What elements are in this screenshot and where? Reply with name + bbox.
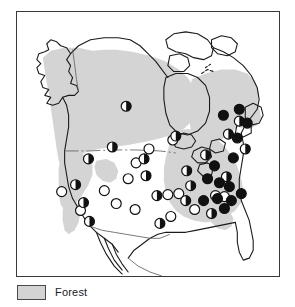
- data-point-half: [121, 101, 131, 111]
- data-point-solid: [210, 161, 220, 171]
- data-point-solid: [213, 194, 223, 204]
- data-point-open: [130, 205, 140, 215]
- data-point-open: [144, 144, 154, 154]
- legend-swatch-forest: [17, 285, 46, 300]
- data-point-half: [83, 154, 93, 164]
- data-point-half: [141, 171, 151, 181]
- map-legend: Forest: [17, 285, 87, 300]
- data-point-open: [111, 199, 121, 209]
- data-point-solid: [203, 174, 213, 184]
- data-point-half: [79, 198, 89, 208]
- data-point-solid: [232, 133, 242, 143]
- data-point-half: [171, 131, 181, 141]
- data-point-solid: [236, 189, 246, 199]
- map-frame: [16, 11, 280, 277]
- data-point-open: [99, 186, 109, 196]
- data-point-half: [207, 209, 217, 219]
- data-point-half: [152, 191, 162, 201]
- data-point-solid: [219, 204, 229, 214]
- data-point-solid: [226, 196, 236, 206]
- distribution-map-figure: Forest: [0, 0, 295, 307]
- data-point-open: [123, 174, 133, 184]
- data-point-half: [71, 180, 81, 190]
- data-point-solid: [234, 104, 244, 114]
- data-point-half: [107, 142, 117, 152]
- data-point-open: [163, 190, 173, 200]
- data-point-half: [155, 218, 165, 228]
- data-point-open: [166, 211, 176, 221]
- data-point-solid: [228, 153, 238, 163]
- legend-label-forest: Forest: [55, 287, 87, 298]
- data-point-half: [240, 144, 250, 154]
- data-point-solid: [224, 182, 234, 192]
- data-point-solid: [218, 110, 228, 120]
- map-canvas: [17, 12, 279, 276]
- data-point-half: [201, 150, 211, 160]
- data-point-half: [186, 181, 196, 191]
- data-point-half: [84, 216, 94, 226]
- data-point-half: [139, 154, 149, 164]
- data-point-open: [190, 205, 200, 215]
- data-point-half: [181, 196, 191, 206]
- data-point-open: [57, 187, 67, 197]
- data-point-solid: [214, 178, 224, 188]
- data-point-half: [182, 166, 192, 176]
- data-point-solid: [242, 118, 252, 128]
- data-point-solid: [199, 196, 209, 206]
